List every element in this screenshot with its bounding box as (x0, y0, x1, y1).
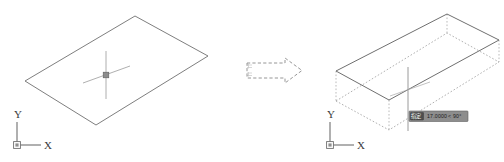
ucs-x-label: X (357, 139, 365, 151)
canvas-background (0, 0, 504, 162)
tooltip-field-label: 指定 (411, 112, 421, 120)
tooltip-angle-value[interactable]: 90° (453, 113, 461, 119)
ucs-y-label: Y (327, 108, 335, 120)
pick-box[interactable] (103, 72, 109, 78)
cad-illustration-canvas: Y X (0, 0, 504, 162)
dynamic-input-tooltip[interactable]: 指定 17.0000 < 90° (409, 111, 468, 122)
ucs-x-label: X (44, 139, 52, 151)
ucs-origin-inner-box (15, 143, 18, 146)
ucs-y-label: Y (14, 108, 22, 120)
tooltip-separator: < (448, 113, 451, 119)
tooltip-distance-value[interactable]: 17.0000 (427, 113, 447, 119)
ucs-origin-inner-box (328, 143, 331, 146)
